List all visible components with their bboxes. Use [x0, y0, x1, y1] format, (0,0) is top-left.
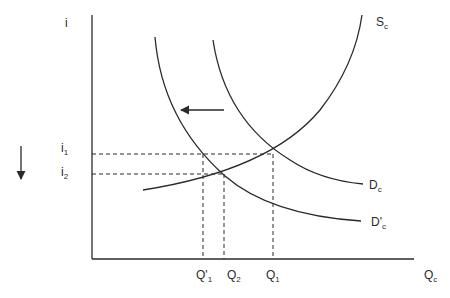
- y-axis-label: i: [65, 16, 68, 30]
- sc-label: Sc: [376, 15, 388, 31]
- q1-prime-label: Q'1: [196, 268, 213, 284]
- d-prime-c-label: D'c: [371, 215, 386, 231]
- q2-label: Q2: [227, 268, 241, 284]
- i2-label: i2: [61, 165, 69, 181]
- supply-curve-sc: [143, 15, 362, 190]
- demand-curve-d-prime-c: [155, 37, 361, 221]
- guide-lines: [92, 154, 273, 259]
- x-axis-label: Qc: [424, 268, 437, 284]
- i1-label: i1: [61, 141, 69, 157]
- demand-curve-dc: [213, 40, 363, 184]
- q1-label: Q1: [266, 268, 280, 284]
- dc-label: Dc: [369, 178, 382, 194]
- money-market-diagram: i i1 i2 Sc Dc D'c Q'1 Q2 Q1 Qc: [0, 0, 450, 298]
